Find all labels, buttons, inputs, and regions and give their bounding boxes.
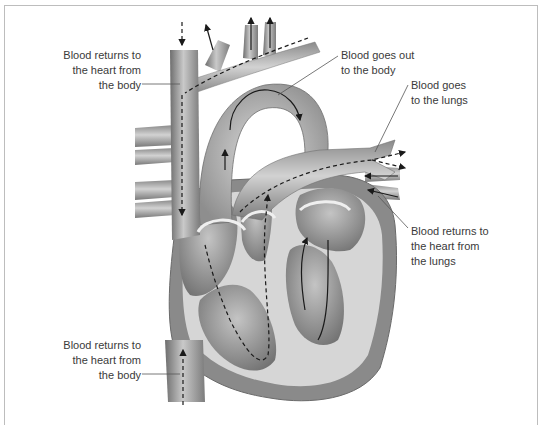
label-aorta: Blood goes out to the body — [341, 48, 414, 78]
left-branch-vessels — [135, 125, 175, 218]
superior-vena-cava — [170, 50, 200, 240]
label-pulmonary-veins: Blood returns to the heart from the lung… — [411, 224, 489, 269]
label-vena-cava-superior: Blood returns to the heart from the body — [46, 48, 141, 93]
inferior-vena-cava — [165, 340, 205, 402]
label-vena-cava-inferior: Blood returns to the heart from the body — [46, 338, 141, 383]
label-pulmonary-artery: Blood goes to the lungs — [411, 78, 468, 108]
